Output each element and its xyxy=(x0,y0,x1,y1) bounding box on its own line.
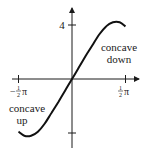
svg-text:π: π xyxy=(124,86,129,97)
x-tick-label-half-pi: 1 2 π xyxy=(118,85,129,98)
svg-text:1: 1 xyxy=(17,85,20,91)
svg-text:2: 2 xyxy=(119,92,122,98)
svg-text:2: 2 xyxy=(17,92,20,98)
svg-text:up: up xyxy=(17,114,29,126)
svg-text:−: − xyxy=(10,86,16,97)
x-tick-label-neg-half-pi: − 1 2 π xyxy=(10,85,27,98)
y-tick-label-4: 4 xyxy=(59,19,65,31)
svg-text:concave: concave xyxy=(101,41,137,53)
annotation-concave-down: concave down xyxy=(101,41,137,65)
svg-text:concave: concave xyxy=(9,102,45,114)
chart: 4 − 1 2 π 1 2 π concave down concave up xyxy=(0,0,147,153)
annotation-concave-up: concave up xyxy=(9,102,45,126)
svg-text:1: 1 xyxy=(119,85,122,91)
svg-text:down: down xyxy=(107,53,132,65)
svg-text:π: π xyxy=(22,86,27,97)
